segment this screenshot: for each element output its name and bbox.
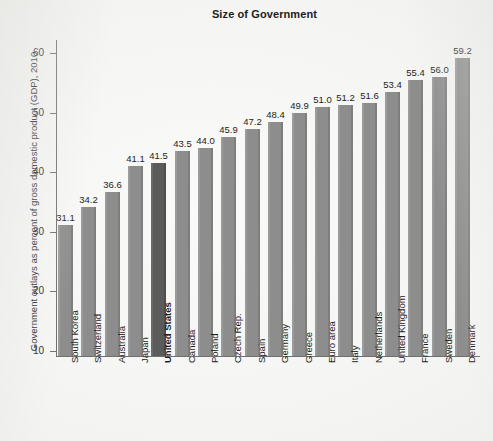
bar-chart-plot-area: Government outlays as percent of gross d… bbox=[0, 0, 493, 441]
bar-greece[interactable] bbox=[292, 113, 307, 356]
x-axis-category-label: Spain bbox=[257, 339, 267, 363]
bar-value-label: 51.6 bbox=[350, 91, 390, 101]
x-axis-category-label: Czech Rep. bbox=[233, 313, 243, 363]
x-axis-category-label: Australia bbox=[117, 326, 127, 363]
bar-denmark[interactable] bbox=[455, 58, 470, 356]
bar-value-label: 56.0 bbox=[420, 65, 460, 75]
x-axis-category-label: Denmark bbox=[467, 324, 477, 363]
bar-spain[interactable] bbox=[245, 129, 260, 356]
x-axis-category-label: France bbox=[420, 333, 430, 363]
bar-sweden[interactable] bbox=[432, 77, 447, 356]
x-axis-category-label: Japan bbox=[140, 337, 150, 363]
x-axis-category-label: Greece bbox=[304, 332, 314, 363]
bar-value-label: 31.1 bbox=[46, 213, 86, 223]
x-axis-category-label: South Korea bbox=[70, 310, 80, 363]
x-axis-category-label: United Kingdom bbox=[397, 295, 407, 363]
bar-value-label: 59.2 bbox=[443, 46, 483, 56]
bar-value-label: 48.4 bbox=[256, 110, 296, 120]
x-axis-category-label: Switzerland bbox=[93, 314, 103, 363]
bar-value-label: 41.5 bbox=[139, 151, 179, 161]
bar-japan[interactable] bbox=[128, 166, 143, 356]
bar-euro-area[interactable] bbox=[315, 107, 330, 356]
bar-value-label: 34.2 bbox=[69, 195, 109, 205]
x-axis-category-label: United States bbox=[163, 302, 173, 363]
bar-value-label: 36.6 bbox=[93, 180, 133, 190]
bar-value-label: 53.4 bbox=[373, 80, 413, 90]
x-axis-category-label: Sweden bbox=[444, 329, 454, 363]
x-axis-category-label: Netherlands bbox=[374, 312, 384, 363]
x-axis-category-label: Italy bbox=[350, 346, 360, 363]
bar-series: 31.1South Korea34.2Switzerland36.6Austra… bbox=[0, 0, 493, 441]
bar-canada[interactable] bbox=[175, 151, 190, 356]
x-axis-category-label: Canada bbox=[187, 330, 197, 363]
bar-value-label: 44.0 bbox=[186, 136, 226, 146]
bar-italy[interactable] bbox=[338, 105, 353, 356]
x-axis-category-label: Germany bbox=[280, 324, 290, 363]
x-axis-category-label: Euro area bbox=[327, 321, 337, 363]
x-axis-category-label: Poland bbox=[210, 333, 220, 363]
bar-germany[interactable] bbox=[268, 122, 283, 356]
bar-poland[interactable] bbox=[198, 148, 213, 356]
bar-france[interactable] bbox=[408, 80, 423, 356]
